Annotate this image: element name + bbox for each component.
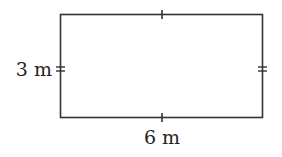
width-label: 6 m xyxy=(144,126,180,148)
height-label: 3 m xyxy=(16,58,52,80)
rectangle xyxy=(61,15,263,118)
rectangle-diagram: 3 m 6 m xyxy=(0,0,282,157)
